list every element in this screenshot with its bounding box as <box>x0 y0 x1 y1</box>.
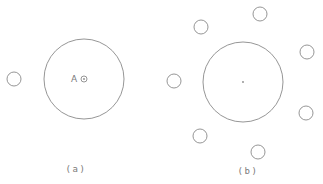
panel-b-small-circle-7 <box>251 145 265 159</box>
panel-a-caption: (a) <box>66 164 87 174</box>
panel-b-small-circle-3 <box>300 45 314 59</box>
panel-b-small-circles <box>167 7 314 159</box>
point-a-label: A <box>71 74 78 84</box>
point-a-dot <box>83 78 85 80</box>
panel-b-small-circle-5 <box>299 106 313 120</box>
panel-b-center-dot <box>242 81 244 83</box>
panel-b-small-circle-1 <box>194 20 208 34</box>
panel-b-small-circle-2 <box>253 7 267 21</box>
panel-b-caption: (b) <box>238 166 259 176</box>
panel-b-small-circle-6 <box>193 129 207 143</box>
panel-a: A (a) <box>7 39 124 174</box>
diagram-canvas: A (a) (b) <box>0 0 323 184</box>
panel-a-small-circle <box>7 72 21 86</box>
panel-b: (b) <box>167 7 314 176</box>
panel-b-small-circle-4 <box>167 74 181 88</box>
